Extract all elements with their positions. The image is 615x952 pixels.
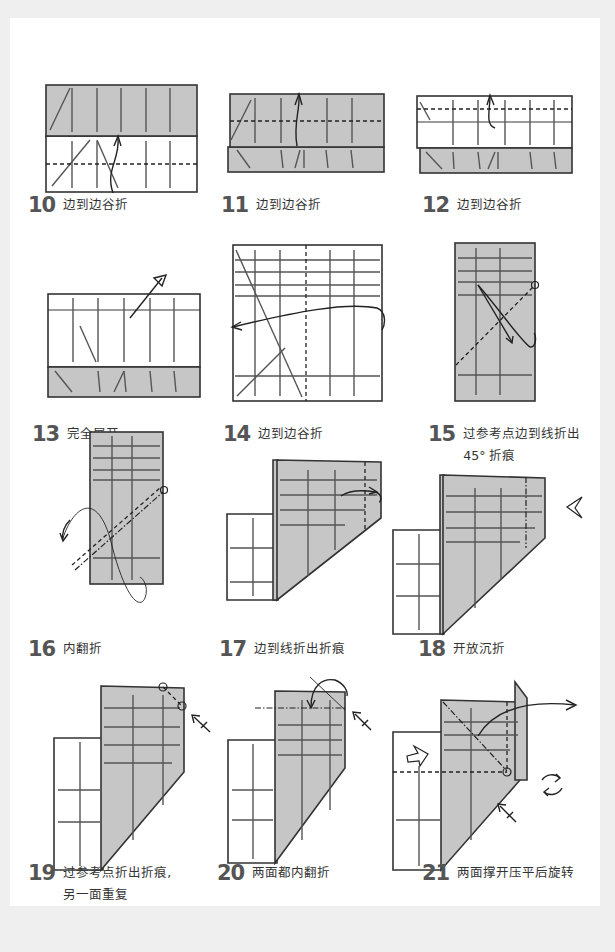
step-number: 16 bbox=[28, 638, 55, 660]
step-number: 21 bbox=[422, 862, 449, 884]
step-15: 15 过参考点边到线折出 45° 折痕 bbox=[410, 230, 615, 430]
step-17: 17 边到线折出折痕 bbox=[205, 430, 410, 670]
step-11-caption: 11 边到边谷折 bbox=[221, 194, 321, 216]
step-instruction: 边到边谷折 bbox=[457, 194, 522, 216]
step-20: 20 两面都内翻折 bbox=[205, 670, 410, 910]
step-18-caption: 18 开放沉折 bbox=[418, 638, 505, 660]
step-13-diagram bbox=[0, 230, 205, 430]
step-20-caption: 20 两面都内翻折 bbox=[217, 862, 330, 884]
step-10-caption: 10 边到边谷折 bbox=[28, 194, 128, 216]
step-15-diagram bbox=[410, 230, 615, 430]
step-10: 10 边到边谷折 bbox=[0, 0, 205, 230]
step-12-caption: 12 边到边谷折 bbox=[422, 194, 522, 216]
step-11: 11 边到边谷折 bbox=[205, 0, 410, 230]
step-13: 13 完全展开 bbox=[0, 230, 205, 430]
step-17-caption: 17 边到线折出折痕 bbox=[219, 638, 345, 660]
step-number: 11 bbox=[221, 194, 248, 216]
step-number: 19 bbox=[28, 862, 55, 884]
step-19-caption: 19 过参考点折出折痕, 另一面重复 bbox=[28, 862, 171, 906]
step-18: 18 开放沉折 bbox=[410, 430, 615, 670]
step-number: 20 bbox=[217, 862, 244, 884]
step-18-diagram bbox=[410, 430, 615, 670]
step-instruction: 边到线折出折痕 bbox=[254, 638, 345, 660]
step-instruction: 边到边谷折 bbox=[63, 194, 128, 216]
step-instruction: 两面撑开压平后旋转 bbox=[457, 862, 574, 884]
step-16-caption: 16 内翻折 bbox=[28, 638, 102, 660]
step-number: 12 bbox=[422, 194, 449, 216]
step-number: 17 bbox=[219, 638, 246, 660]
step-17-diagram bbox=[205, 430, 410, 670]
step-14: 14 边到边谷折 bbox=[205, 230, 410, 430]
step-instruction: 边到边谷折 bbox=[256, 194, 321, 216]
step-instruction: 内翻折 bbox=[63, 638, 102, 660]
step-16: 16 内翻折 bbox=[0, 430, 205, 670]
step-16-diagram bbox=[0, 430, 205, 670]
step-19: 19 过参考点折出折痕, 另一面重复 bbox=[0, 670, 205, 910]
step-number: 18 bbox=[418, 638, 445, 660]
step-21-caption: 21 两面撑开压平后旋转 bbox=[422, 862, 574, 884]
step-instruction: 过参考点折出折痕, bbox=[63, 862, 171, 884]
step-21: 21 两面撑开压平后旋转 bbox=[410, 670, 615, 910]
step-instruction: 开放沉折 bbox=[453, 638, 505, 660]
step-12: 12 边到边谷折 bbox=[410, 0, 615, 230]
step-number: 10 bbox=[28, 194, 55, 216]
step-instruction: 两面都内翻折 bbox=[252, 862, 330, 884]
step-instruction-line-2: 另一面重复 bbox=[63, 884, 171, 906]
step-14-diagram bbox=[205, 230, 410, 430]
